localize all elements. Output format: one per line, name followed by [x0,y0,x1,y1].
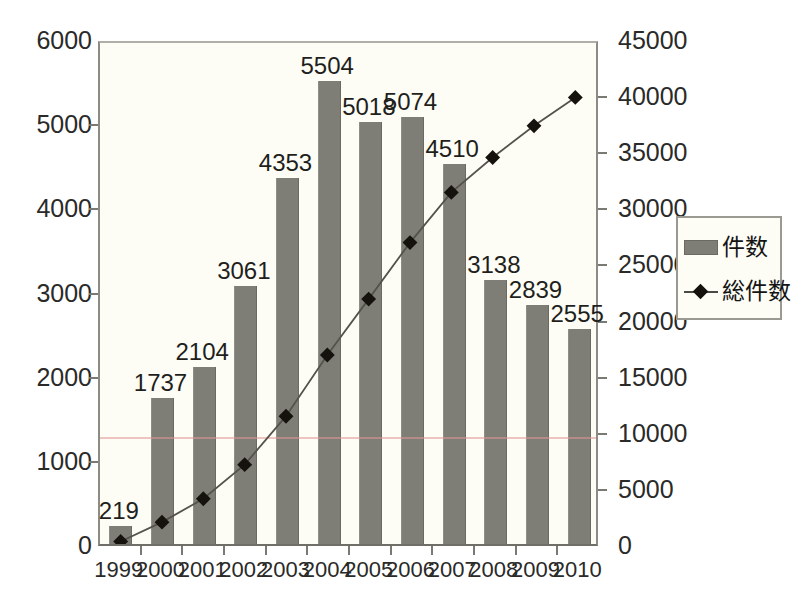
right-axis-tick-label: 5000 [618,477,674,502]
category-axis-tickmark [390,546,392,555]
bar-value-label: 4510 [414,137,490,161]
line-marker [320,348,335,363]
right-axis-tickmark [598,377,607,379]
right-axis-tickmark [598,152,607,154]
bar-value-label: 2839 [498,278,574,302]
left-axis-tickmark [89,377,98,379]
category-axis-tickmark [515,546,517,555]
left-axis-tickmark [89,124,98,126]
right-axis-tickmark [598,96,607,98]
bar-value-label: 2104 [164,340,240,364]
left-axis-tick-label: 3000 [36,281,92,306]
line-marker [527,118,542,133]
category-axis-tickmark [431,546,433,555]
legend: 件数 総件数 [676,216,782,320]
left-axis-tick-label: 2000 [36,365,92,390]
bar-value-label: 1737 [123,371,199,395]
left-axis-tick-label: 4000 [36,196,92,221]
line-marker [361,292,376,307]
category-axis-tickmark [140,546,142,555]
right-axis-tick-label: 45000 [618,28,688,53]
bar-value-label: 5074 [373,90,449,114]
chart-page: 0100020003000400050006000 05000100001500… [0,0,808,615]
bar-value-label: 3138 [456,253,532,277]
left-axis-tickmark [89,293,98,295]
legend-item-label: 件数 [722,236,768,259]
category-axis-tickmark [473,546,475,555]
legend-item-label: 総件数 [722,280,791,303]
bar-value-label: 219 [81,499,157,523]
bar-value-label: 2555 [539,302,615,326]
right-axis-tickmark [598,208,607,210]
bar-value-label: 3061 [206,259,282,283]
line-diamond-swatch-icon [684,284,718,299]
right-axis-tick-label: 15000 [618,365,688,390]
bar-swatch-icon [684,240,718,255]
bar-value-label: 5504 [289,54,365,78]
left-axis-tickmark [89,208,98,210]
left-axis-tick-label: 0 [78,533,92,558]
category-axis-tickmark [348,546,350,555]
category-axis-tickmark [556,546,558,555]
right-axis-tickmark [598,489,607,491]
cumulative-line [121,97,576,541]
legend-item-bars: 件数 [684,236,768,259]
right-axis-tickmark [598,433,607,435]
category-axis-tickmark [181,546,183,555]
line-marker [568,90,583,105]
bar-value-label: 4353 [248,151,324,175]
right-axis-tickmark [598,264,607,266]
right-axis-tick-label: 10000 [618,421,688,446]
left-axis-tick-label: 5000 [36,112,92,137]
category-axis-tickmark [223,546,225,555]
category-axis-tickmark [306,546,308,555]
right-axis-tick-label: 0 [618,533,632,558]
category-axis-tickmark [265,546,267,555]
left-axis-tick-label: 6000 [36,28,92,53]
left-axis-tick-label: 1000 [36,449,92,474]
left-axis-tickmark [89,461,98,463]
legend-item-line: 総件数 [684,280,791,303]
right-axis-tick-label: 40000 [618,84,688,109]
category-tick-label: 2010 [545,558,609,582]
right-axis-tick-label: 35000 [618,140,688,165]
